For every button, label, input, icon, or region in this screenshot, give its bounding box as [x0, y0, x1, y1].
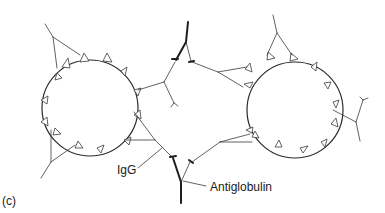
igg-antibody — [138, 62, 178, 107]
igg-antibody — [45, 24, 80, 68]
antiglobulin-leader-line — [183, 181, 206, 186]
antiglobulin-diagram: (c) IgG Antiglobulin — [0, 0, 385, 213]
igg-antibody — [267, 15, 292, 55]
antiglobulin-molecule — [172, 22, 194, 62]
igg-antibody — [192, 62, 247, 87]
panel-label: (c) — [2, 195, 16, 207]
diagram-canvas — [0, 0, 385, 213]
igg-antibody — [192, 134, 252, 162]
left-red-cell — [41, 24, 141, 178]
antiglobulin-label: Antiglobulin — [210, 181, 272, 193]
right-red-cell — [244, 15, 368, 158]
igg-label: IgG — [117, 164, 136, 176]
igg-leader-line — [138, 148, 162, 168]
antiglobulin-molecule — [170, 156, 193, 203]
